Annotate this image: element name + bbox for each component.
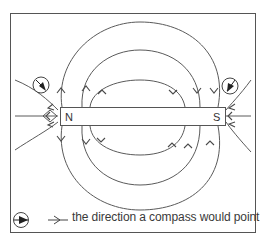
legend-compass-icon: [14, 213, 29, 228]
compass-icon-right: [222, 78, 238, 94]
south-pole-label: S: [213, 111, 220, 123]
legend-caption: the direction a compass would point: [72, 210, 259, 224]
compass-icon-left: [33, 77, 49, 93]
legend-arrow-icon: [48, 216, 68, 224]
north-pole-label: N: [65, 111, 73, 123]
magnetic-field-diagram: N S: [0, 0, 266, 243]
bar-magnet: N S: [61, 108, 226, 126]
